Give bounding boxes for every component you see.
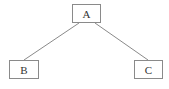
edge-a-b [24, 23, 79, 60]
node-c-label: C [145, 64, 152, 76]
node-b-label: B [20, 64, 27, 76]
node-c: C [134, 60, 163, 79]
edge-a-c [95, 23, 148, 60]
node-b: B [9, 60, 39, 79]
node-a: A [72, 4, 101, 23]
node-a-label: A [83, 8, 91, 20]
